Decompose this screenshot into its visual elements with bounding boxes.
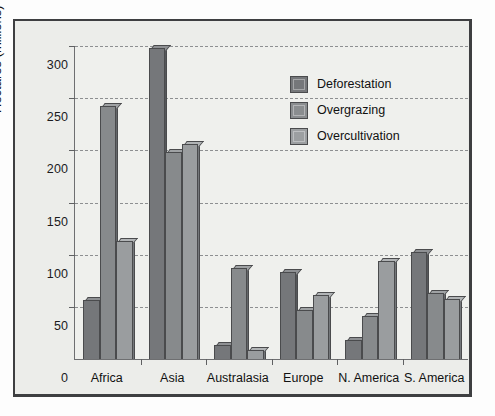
x-axis-tick-label: Europe (283, 371, 323, 385)
bar-face (247, 350, 264, 359)
bar (83, 301, 98, 359)
x-axis-tick-label: S. America (404, 371, 464, 385)
legend-item[interactable]: Overgrazing (290, 99, 450, 121)
y-axis-tick-label: 150 (47, 215, 68, 229)
bar (182, 145, 197, 359)
bar (296, 311, 311, 359)
bar (149, 49, 164, 359)
x-axis-tick-label: Asia (160, 371, 184, 385)
chart-frame: 050100150200250300 Hectares (millions) A… (13, 19, 472, 397)
figure: 050100150200250300 Hectares (millions) A… (0, 0, 495, 416)
bar (280, 273, 295, 359)
legend-swatch-overcultivation (290, 128, 308, 145)
bar (411, 253, 426, 359)
y-axis-tick-label: 0 (61, 371, 68, 385)
bar-face (345, 340, 362, 359)
bar-face (149, 48, 166, 359)
bar-face (444, 299, 461, 359)
bar-face (100, 106, 117, 359)
bar-face (231, 268, 248, 359)
y-axis-tick-mark (69, 150, 75, 151)
y-axis-tick-mark (69, 46, 75, 47)
y-axis-tick-label: 250 (47, 110, 68, 124)
bar (378, 262, 393, 359)
legend-label: Overgrazing (317, 103, 385, 117)
gridline (75, 203, 468, 204)
y-axis-tick-mark (69, 203, 75, 204)
bar (247, 351, 262, 359)
legend-item[interactable]: Overcultivation (290, 125, 450, 147)
y-axis-tick-label: 50 (54, 319, 68, 333)
bar-face (182, 144, 199, 359)
x-axis-tick-label: Australasia (207, 371, 269, 385)
y-axis-tick-mark (69, 255, 75, 256)
bar-face (378, 261, 395, 359)
bar-face (296, 310, 313, 359)
y-axis-tick-label: 100 (47, 267, 68, 281)
bar (362, 317, 377, 359)
bar-face (165, 152, 182, 359)
bar-face (411, 252, 428, 359)
y-axis-tick-labels: 050100150200250300 (28, 40, 68, 416)
bar (116, 242, 131, 359)
bar (313, 296, 328, 359)
bar-face (214, 345, 231, 359)
y-axis-title: Hectares (millions) (0, 0, 4, 113)
bar (427, 294, 442, 359)
bar (100, 107, 115, 359)
legend-swatch-overgrazing (290, 102, 308, 119)
legend-swatch-deforestation (290, 76, 308, 93)
bar-face (362, 316, 379, 359)
legend-item[interactable]: Deforestation (290, 73, 450, 95)
legend-label: Overcultivation (317, 129, 400, 143)
bar-face (83, 300, 100, 359)
bar-face (313, 295, 330, 359)
bar-face (116, 241, 133, 359)
bar-face (280, 272, 297, 359)
y-axis-tick-label: 200 (47, 162, 68, 176)
x-axis-tick-label: N. America (338, 371, 399, 385)
bar (231, 269, 246, 359)
legend-label: Deforestation (317, 77, 391, 91)
gridline (75, 46, 468, 47)
legend: Deforestation Overgrazing Overcultivatio… (290, 73, 450, 151)
y-axis-tick-mark (69, 307, 75, 308)
bar (444, 300, 459, 359)
x-axis-tick-label: Africa (91, 371, 123, 385)
x-axis-tick-labels: AfricaAsiaAustralasiaEuropeN. AmericaS. … (74, 365, 467, 391)
bar (214, 346, 229, 359)
y-axis-tick-label: 300 (47, 58, 68, 72)
bar (165, 153, 180, 359)
bar (345, 341, 360, 359)
y-axis-tick-mark (69, 98, 75, 99)
bar-face (427, 293, 444, 359)
